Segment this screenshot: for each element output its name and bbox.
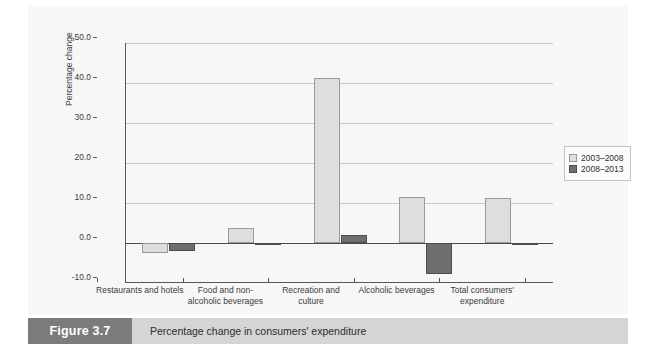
y-tick-mark	[93, 77, 97, 78]
gridline	[126, 123, 553, 124]
y-tick-mark	[93, 197, 97, 198]
figure-caption-bar: Figure 3.7 Percentage change in consumer…	[28, 318, 628, 344]
chart-panel: Percentage change 50.040.030.020.010.00.…	[28, 6, 628, 315]
bar	[228, 228, 254, 243]
y-tick-label: 50.0	[55, 32, 91, 42]
gridline	[126, 43, 553, 44]
bar	[426, 243, 452, 274]
gridline	[126, 83, 553, 84]
plot-area	[125, 43, 553, 283]
gridline	[126, 163, 553, 164]
y-tick-mark	[93, 117, 97, 118]
x-tick-mark	[97, 278, 98, 282]
bar	[142, 243, 168, 253]
bar	[255, 243, 281, 245]
y-axis-title: Percentage change	[64, 90, 74, 106]
x-tick-mark	[525, 278, 526, 282]
x-tick-mark	[268, 278, 269, 282]
x-category-label: Total consumers' expenditure	[433, 285, 531, 307]
legend-item-label: 2003–2008	[581, 153, 624, 163]
y-tick-label: 10.0	[55, 192, 91, 202]
y-tick-mark	[93, 237, 97, 238]
legend-swatch-icon	[569, 154, 577, 162]
y-tick-label: 0.0	[55, 232, 91, 242]
x-category-label: Food and non- alcoholic beverages	[177, 285, 275, 307]
bar	[399, 197, 425, 243]
bar	[512, 243, 538, 245]
bar	[341, 235, 367, 243]
y-tick-label: -10.0	[55, 272, 91, 282]
y-tick-label: 40.0	[55, 72, 91, 82]
x-tick-mark	[354, 278, 355, 282]
y-tick-label: 20.0	[55, 152, 91, 162]
figure-number: Figure 3.7	[28, 318, 132, 344]
bar	[314, 78, 340, 243]
x-tick-mark	[439, 278, 440, 282]
bar	[169, 243, 195, 251]
y-tick-mark	[93, 157, 97, 158]
legend-item: 2003–2008	[569, 153, 624, 163]
x-category-label: Alcoholic beverages	[348, 285, 446, 296]
legend: 2003–2008 2008–2013	[564, 146, 631, 181]
y-tick-label: 30.0	[55, 112, 91, 122]
legend-item: 2008–2013	[569, 164, 624, 174]
x-category-label: Restaurants and hotels	[91, 285, 189, 296]
figure-caption-text: Percentage change in consumers' expendit…	[150, 318, 366, 344]
legend-swatch-icon	[569, 165, 577, 173]
x-tick-mark	[183, 278, 184, 282]
legend-item-label: 2008–2013	[581, 164, 624, 174]
figure-root: Percentage change 50.040.030.020.010.00.…	[0, 0, 646, 363]
bar	[485, 198, 511, 243]
y-tick-mark	[93, 37, 97, 38]
x-category-label: Recreation and culture	[262, 285, 360, 307]
